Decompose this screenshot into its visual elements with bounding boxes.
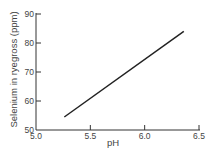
x-tick-label: 6.5 [193,131,205,141]
chart: 5060708090 5.05.56.06.5 Selenium in ryeg… [0,0,214,153]
data-line [64,31,184,117]
y-tick-label: 90 [25,9,35,19]
y-axis-label: Selenium in ryegross (ppm) [8,5,19,135]
y-ticks: 5060708090 [25,9,41,135]
y-tick-label: 60 [25,96,35,106]
x-axis-label: pH [107,137,119,148]
x-tick-label: 6.0 [139,131,151,141]
x-tick-label: 5.5 [84,131,96,141]
y-tick-label: 70 [25,67,35,77]
y-tick-label: 80 [25,38,35,48]
x-tick-label: 5.0 [30,131,42,141]
plot-area: 5060708090 5.05.56.06.5 [0,0,214,153]
